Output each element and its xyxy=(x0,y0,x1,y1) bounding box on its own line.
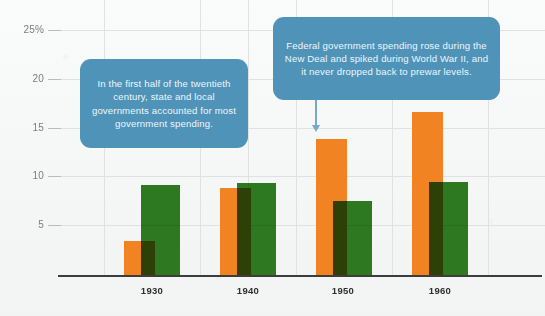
x-axis-line xyxy=(58,275,542,277)
y-axis-tick-25 xyxy=(48,30,61,31)
bar-state-local-1930 xyxy=(141,185,180,275)
gridline-5 xyxy=(50,225,545,226)
y-axis-label-25: 25% xyxy=(6,24,44,35)
bar-state-local-1950 xyxy=(333,201,372,275)
x-axis-label-1960: 1960 xyxy=(410,285,470,296)
y-axis-tick-10 xyxy=(48,176,61,177)
x-axis-label-1930: 1930 xyxy=(122,285,182,296)
y-axis-label-5: 5 xyxy=(6,219,44,230)
bar-chart: 25% 20 15 10 5 1930 1940 1950 1960 In th… xyxy=(0,0,545,316)
y-axis-label-10: 10 xyxy=(6,170,44,181)
x-axis-label-1940: 1940 xyxy=(218,285,278,296)
y-axis-tick-20 xyxy=(48,79,61,80)
y-axis-label-20: 20 xyxy=(6,73,44,84)
y-axis-tick-15 xyxy=(48,128,61,129)
callout-federal: Federal government spending rose during … xyxy=(273,17,500,100)
callout-arrow-line xyxy=(315,100,317,126)
x-axis-label-1950: 1950 xyxy=(313,285,373,296)
y-axis-tick-5 xyxy=(48,225,61,226)
callout-state-local: In the first half of the twentieth centu… xyxy=(80,59,248,148)
bar-state-local-1960 xyxy=(429,182,468,275)
gridline-10 xyxy=(50,176,545,177)
arrow-down-icon xyxy=(312,125,320,132)
bar-state-local-1940 xyxy=(237,183,276,275)
y-axis-label-15: 15 xyxy=(6,122,44,133)
